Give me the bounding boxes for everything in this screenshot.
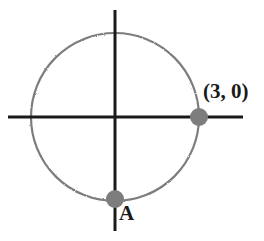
label-point-3-0: (3, 0) — [203, 81, 249, 102]
label-point-a: A — [119, 203, 134, 224]
point-marker-3-0 — [190, 108, 208, 126]
figure-canvas: (3, 0) A — [0, 0, 264, 241]
